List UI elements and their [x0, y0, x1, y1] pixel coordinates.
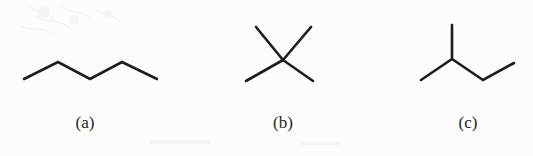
neopentane-bond-upper-right: [283, 27, 311, 60]
neopentane-bond-upper-left: [256, 27, 283, 60]
structure-neopentane: [0, 0, 533, 156]
caption-b: (b): [248, 114, 318, 131]
structure-pentane: [0, 0, 533, 156]
figure-canvas: (a) (b) (c): [0, 0, 533, 156]
neopentane-bond-lower-left: [246, 60, 283, 81]
neopentane-bond-lower-right: [283, 60, 313, 81]
scan-texture: [0, 0, 533, 156]
caption-c: (c): [433, 114, 503, 131]
pentane-bond-chain: [24, 62, 157, 79]
structure-2-methylbutane: [0, 0, 533, 156]
methylbutane-bond-chain: [421, 59, 514, 80]
caption-a: (a): [50, 114, 120, 131]
